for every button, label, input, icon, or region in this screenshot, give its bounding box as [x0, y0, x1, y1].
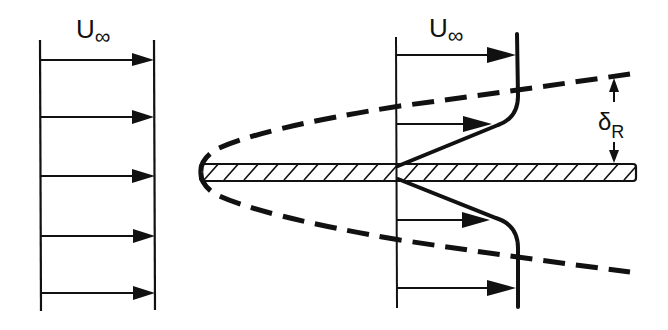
- label-main: U: [76, 14, 95, 44]
- label-sub: ∞: [448, 23, 463, 48]
- label-sub: ∞: [95, 24, 110, 49]
- velocity-arrows: [40, 53, 155, 300]
- flat-plate: [200, 164, 636, 181]
- profile-envelope: [154, 40, 155, 310]
- uniform-velocity-profile: [40, 40, 155, 311]
- freestream-velocity-label-right: U∞: [429, 15, 462, 47]
- freestream-velocity-label-left: U∞: [76, 16, 109, 48]
- label-main: δ: [598, 108, 611, 135]
- boundary-layer-diagram: [0, 0, 668, 330]
- boundary-layer-thickness-label: δR: [598, 110, 624, 141]
- label-main: U: [429, 13, 448, 43]
- profile-baseline: [40, 40, 41, 311]
- label-sub: R: [611, 122, 624, 142]
- profile-baseline: [396, 37, 397, 308]
